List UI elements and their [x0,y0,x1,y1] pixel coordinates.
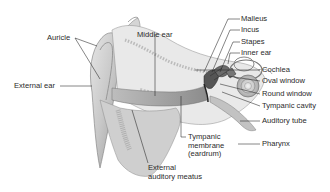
label-external-ear: External ear [14,82,55,91]
label-cochlea: Cochlea [262,66,290,75]
label-stapes: Stapes [241,38,265,47]
label-auditory-tube: Auditory tube [262,117,307,126]
ear-anatomy-diagram: Auricle External ear Middle ear Malleus … [0,0,330,192]
label-tympanic-membrane: Tympanic membrane (eardrum) [188,133,224,159]
label-pharynx: Pharynx [262,140,290,149]
label-tympanic-membrane-line3: (eardrum) [188,150,224,159]
label-external-auditory-meatus: External auditory meatus [148,164,202,181]
label-tympanic-cavity: Tympanic cavity [262,102,316,111]
label-inner-ear: Inner ear [241,49,271,58]
label-auricle: Auricle [47,34,70,43]
label-oval-window: Oval window [262,77,305,86]
label-round-window: Round window [262,90,312,99]
label-incus: Incus [241,26,259,35]
label-malleus: Malleus [241,15,267,24]
label-external-auditory-meatus-line2: auditory meatus [148,173,202,182]
label-middle-ear: Middle ear [137,31,172,40]
